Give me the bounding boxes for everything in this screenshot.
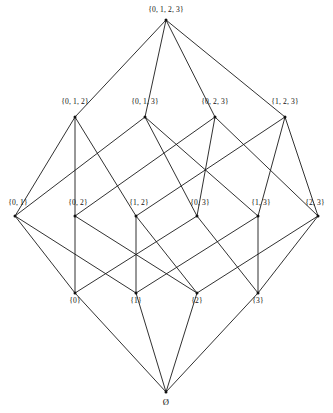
hasse-node-label: {3} — [252, 297, 264, 305]
hasse-edge — [75, 293, 166, 392]
hasse-diagram-canvas: {0, 1, 2, 3}{0, 1, 2}{0, 1, 3}{0, 2, 3}{… — [0, 0, 333, 413]
hasse-node-label: {0, 3} — [190, 199, 210, 207]
hasse-node-dot — [284, 116, 287, 119]
hasse-node-label: {2} — [191, 297, 203, 305]
hasse-node-dot — [165, 391, 168, 394]
hasse-node-dot — [257, 292, 260, 295]
hasse-node-label: {2, 3} — [305, 199, 325, 207]
hasse-node-dot — [135, 215, 138, 218]
hasse-edge — [15, 216, 75, 293]
hasse-node-label: {0, 2, 3} — [201, 98, 229, 106]
hasse-edge — [136, 293, 166, 392]
hasse-edge — [145, 117, 197, 216]
hasse-node-label: {0, 2} — [68, 199, 88, 207]
hasse-edge — [166, 293, 197, 392]
hasse-node-label: {0, 1, 2} — [61, 98, 89, 106]
hasse-edge — [15, 216, 136, 293]
hasse-diagram-svg — [0, 0, 333, 413]
hasse-node-label: {1, 2, 3} — [271, 98, 299, 106]
hasse-node-label: Ø — [163, 398, 169, 407]
hasse-edge — [136, 216, 197, 293]
hasse-node-label: {0, 1, 2, 3} — [148, 6, 184, 14]
hasse-node-label: {1} — [130, 297, 142, 305]
hasse-node-label: {0} — [69, 297, 81, 305]
hasse-node-dot — [74, 292, 77, 295]
hasse-edge — [197, 216, 258, 293]
node-dot-layer — [14, 19, 320, 394]
hasse-node-label: {0, 1} — [8, 199, 28, 207]
hasse-node-dot — [165, 19, 168, 22]
hasse-node-dot — [14, 215, 17, 218]
hasse-node-dot — [144, 116, 147, 119]
hasse-node-dot — [257, 215, 260, 218]
hasse-node-dot — [214, 116, 217, 119]
hasse-edge — [197, 216, 318, 293]
edge-layer — [15, 20, 318, 392]
hasse-node-dot — [74, 215, 77, 218]
hasse-node-label: {1, 3} — [251, 199, 271, 207]
hasse-edge — [258, 216, 318, 293]
hasse-edge — [166, 293, 258, 392]
hasse-node-dot — [196, 215, 199, 218]
hasse-node-dot — [196, 292, 199, 295]
hasse-node-dot — [135, 292, 138, 295]
hasse-node-dot — [317, 215, 320, 218]
hasse-edge — [136, 216, 258, 293]
hasse-node-label: {1, 2} — [129, 199, 149, 207]
hasse-node-dot — [74, 116, 77, 119]
hasse-node-label: {0, 1, 3} — [131, 98, 159, 106]
